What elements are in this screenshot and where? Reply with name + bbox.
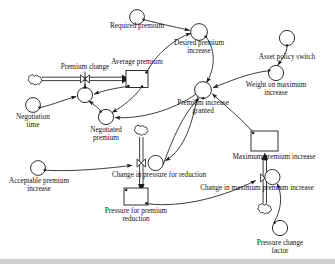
label-acceptable-premium-increase-line2: increase — [0, 185, 78, 193]
cloud-icon-change-in-pressure — [134, 125, 148, 135]
node-premium-increase-granted — [195, 82, 212, 99]
label-pressure-for-premium-reduction-line2: reduction — [95, 215, 177, 223]
label-asset-policy-switch: Asset policy switch — [249, 53, 325, 61]
label-pressure-change-factor-line2: factor — [243, 247, 317, 255]
label-premium-increase-granted-line2: granted — [170, 107, 236, 115]
label-desired-premium-increase-line2: increase — [168, 47, 230, 55]
label-weight-on-maximum-increase-line2: increase — [240, 89, 312, 97]
node-negotiation-aux — [77, 87, 92, 102]
stock-average-premium — [126, 71, 148, 88]
link-negotiated-to-negotiationaux — [89, 101, 102, 111]
node-asset-policy-switch — [279, 30, 294, 45]
node-change-in-pressure-for-reduction — [148, 155, 163, 170]
label-change-in-pressure-for-reduction: Change in pressure for reduction — [96, 171, 222, 179]
node-acceptable-premium-increase — [31, 161, 46, 176]
flow-change-in-pressure-for-reduction — [134, 125, 163, 191]
link-avgpremium-to-negotiationaux — [94, 86, 128, 94]
link-avgpremium-to-negotiated — [112, 87, 142, 112]
label-negotiation-time-line2: time — [5, 121, 61, 129]
valve-icon-change-in-pressure — [137, 159, 145, 167]
node-desired-premium-increase — [191, 24, 208, 41]
stock-maximum-premium-increase — [251, 131, 278, 151]
label-negotiated-premium-line2: premium — [78, 134, 134, 142]
flow-premium-change — [28, 72, 129, 88]
label-premium-change: Premium change — [54, 63, 116, 71]
label-maximum-premium-increase: Maximum premium increase — [224, 153, 324, 161]
footer-bar — [0, 259, 335, 264]
stock-and-flow-diagram: Required premium Desired premium increas… — [0, 0, 335, 264]
cloud-icon-change-in-max — [258, 204, 272, 214]
node-negotiation-time — [26, 98, 41, 113]
node-weight-on-maximum-increase — [268, 65, 283, 80]
stock-pressure-for-premium-reduction — [124, 188, 148, 205]
link-negotiationtime-to-negotiationaux — [40, 97, 76, 108]
cloud-icon-premium-change — [28, 75, 42, 85]
label-change-in-maximum-premium-increase: Change in maximum premium increase — [187, 184, 327, 192]
link-acceptable-to-changepressure — [45, 165, 132, 170]
node-change-in-maximum-premium-increase — [265, 169, 280, 184]
label-required-premium: Required premium — [105, 22, 169, 30]
